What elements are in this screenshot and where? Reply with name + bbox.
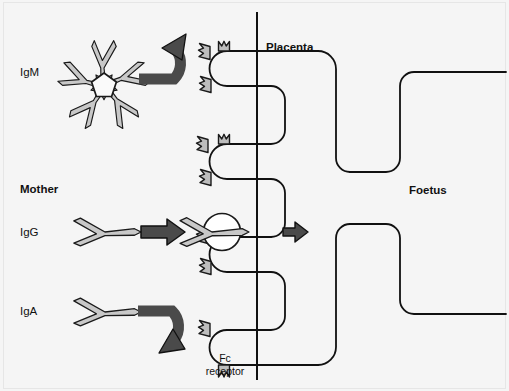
label-mother: Mother xyxy=(20,183,58,196)
figure-root: IgM Mother IgG IgA Placenta Foetus Fc re… xyxy=(0,0,509,391)
label-placenta: Placenta xyxy=(266,41,313,54)
label-iga: IgA xyxy=(20,305,37,318)
label-foetus: Foetus xyxy=(409,184,447,197)
label-igg: IgG xyxy=(20,226,39,239)
fc-receptor-1 xyxy=(219,41,230,51)
label-fc-receptor-line2: receptor xyxy=(190,366,260,378)
label-fc-receptor-line1: Fc xyxy=(197,353,253,365)
fc-receptor-2 xyxy=(219,134,230,144)
label-igm: IgM xyxy=(20,66,39,79)
